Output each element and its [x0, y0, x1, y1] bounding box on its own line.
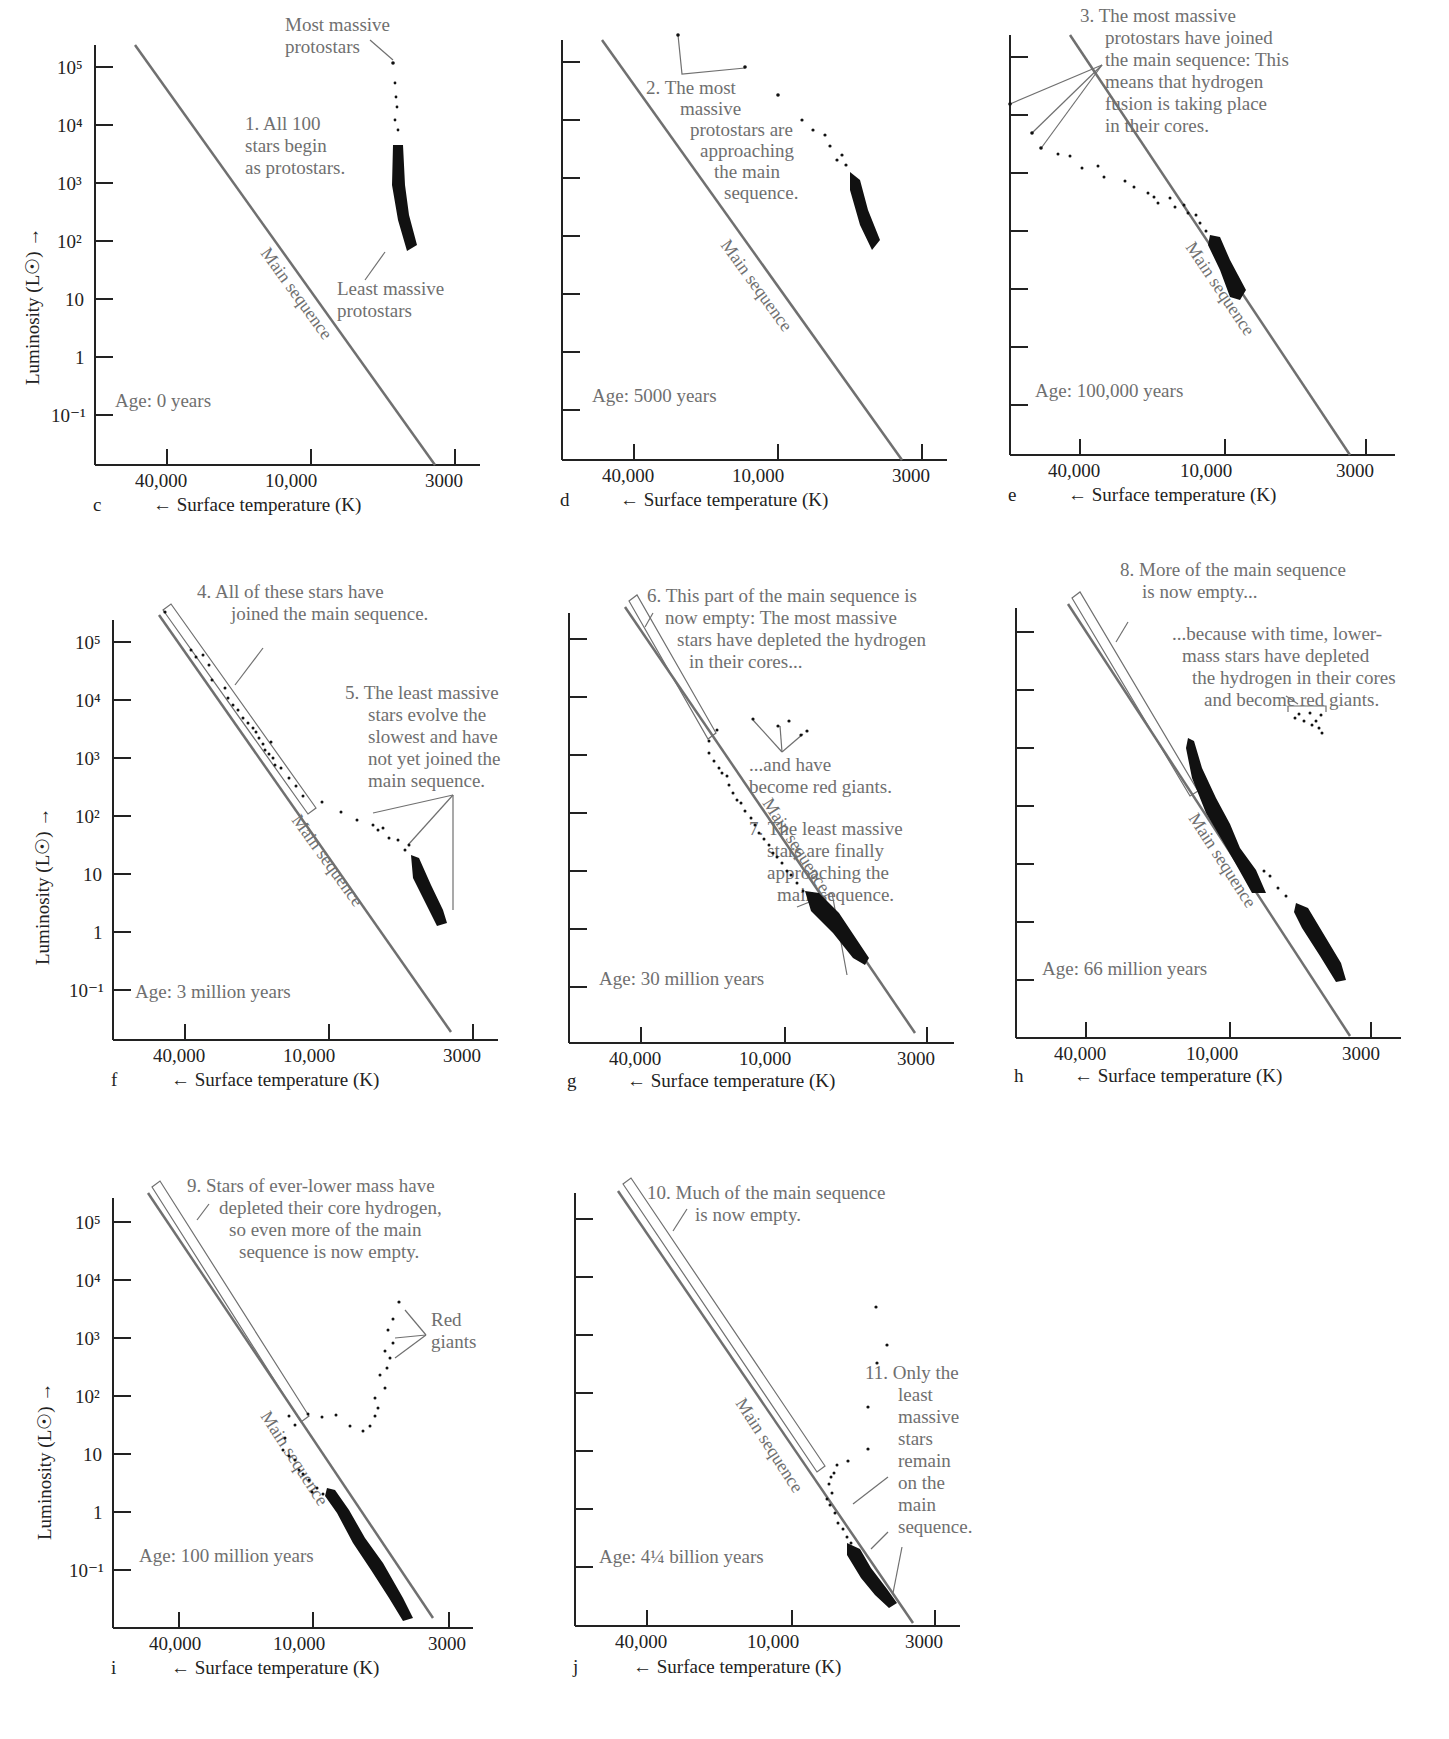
svg-text:on the: on the [898, 1472, 945, 1493]
svg-text:in their cores...: in their cores... [689, 651, 802, 672]
svg-text:1: 1 [93, 1502, 103, 1523]
svg-text:10,000: 10,000 [739, 1048, 791, 1069]
svg-text:10⁻¹: 10⁻¹ [69, 1560, 104, 1581]
panel-letter: c [93, 494, 101, 515]
svg-text:sequence.: sequence. [724, 182, 798, 203]
y-axis-title: Luminosity (L☉) → [32, 808, 54, 965]
svg-text:the hydrogen in their cores: the hydrogen in their cores [1192, 667, 1396, 688]
svg-text:3000: 3000 [428, 1633, 466, 1654]
svg-text:3. The most massive: 3. The most massive [1080, 5, 1236, 26]
svg-text:the main sequence: This: the main sequence: This [1105, 49, 1289, 70]
x-tick-labels: 40,00010,0003000 [1048, 460, 1374, 481]
x-tick-labels: 40,00010,0003000 [602, 465, 930, 486]
svg-text:8. More of the main sequence: 8. More of the main sequence [1120, 559, 1346, 580]
note: 1. All 100 [245, 113, 320, 134]
y-axis-title: Luminosity (L☉) → [22, 228, 44, 385]
svg-text:stars are finally: stars are finally [767, 840, 885, 861]
y-tick-labels: 10⁵10⁴10³10²10110⁻¹ [69, 632, 104, 1001]
svg-text:10²: 10² [57, 231, 82, 252]
panel-d: Main sequence 2. The mostmassiveprotosta… [562, 40, 952, 510]
note-least-massive: protostars [337, 300, 412, 321]
x-tick-labels: 40,00010,0003000 [609, 1048, 935, 1069]
y-axis-title: Luminosity (L☉) → [34, 1383, 56, 1540]
y-tick-labels: 10⁵10⁴10³10²10110⁻¹ [69, 1212, 104, 1581]
panel-j: Main sequence 10. Much of the main seque… [575, 1193, 965, 1663]
hr-diagram-j: Main sequence 10. Much of the main seque… [575, 1193, 965, 1663]
x-tick-labels: 40,00010,0003000 [615, 1631, 943, 1652]
svg-text:11. Only the: 11. Only the [865, 1362, 959, 1383]
svg-text:40,000: 40,000 [602, 465, 654, 486]
svg-text:7. The least massive: 7. The least massive [749, 818, 903, 839]
svg-text:10: 10 [83, 1444, 102, 1465]
svg-text:10,000: 10,000 [1186, 1043, 1238, 1064]
bracket-populated [163, 604, 316, 814]
note-4: 4. All of these stars havejoined the mai… [197, 581, 428, 624]
svg-text:not yet joined the: not yet joined the [368, 748, 500, 769]
hr-diagram-d: Main sequence 2. The mostmassiveprotosta… [562, 40, 952, 510]
svg-text:main sequence.: main sequence. [368, 770, 485, 791]
svg-text:40,000: 40,000 [615, 1631, 667, 1652]
note-6: 6. This part of the main sequence isnow … [647, 585, 927, 672]
y-tick-labels: 10⁵10⁴10³10²10110⁻¹ [51, 57, 86, 426]
svg-text:3000: 3000 [1336, 460, 1374, 481]
svg-text:main sequence.: main sequence. [777, 884, 894, 905]
svg-text:stars: stars [898, 1428, 933, 1449]
hr-diagram-g: Main sequence 6. This part of the main s… [569, 613, 959, 1083]
x-axis-title: ← Surface temperature (K) [1074, 1065, 1282, 1087]
note-red-giants: ...because with time, lower-mass stars h… [1172, 623, 1396, 710]
svg-text:10³: 10³ [57, 173, 82, 194]
x-axis-title: ← Surface temperature (K) [171, 1069, 379, 1091]
panel-letter: j [572, 1656, 578, 1677]
main-sequence-label: Main sequence [717, 236, 797, 336]
svg-text:10⁻¹: 10⁻¹ [51, 405, 86, 426]
svg-text:10⁴: 10⁴ [75, 690, 101, 711]
svg-text:means that hydrogen: means that hydrogen [1105, 71, 1264, 92]
svg-text:3000: 3000 [905, 1631, 943, 1652]
svg-text:sequence is now empty.: sequence is now empty. [239, 1241, 419, 1262]
hr-diagram-e: Main sequence 3. The most massiveprotost… [1010, 35, 1400, 505]
star-points [826, 1305, 898, 1608]
age-label: Age: 4¼ billion years [599, 1546, 764, 1567]
svg-text:mass stars have depleted: mass stars have depleted [1182, 645, 1370, 666]
svg-text:remain: remain [898, 1450, 951, 1471]
svg-text:joined the main sequence.: joined the main sequence. [230, 603, 428, 624]
svg-text:massive: massive [898, 1406, 959, 1427]
panel-g: Main sequence 6. This part of the main s… [569, 613, 959, 1083]
panel-e: Main sequence 3. The most massiveprotost… [1010, 35, 1400, 505]
svg-text:10⁴: 10⁴ [75, 1270, 101, 1291]
svg-text:protostars are: protostars are [690, 119, 793, 140]
note-9: 9. Stars of ever-lower mass havedepleted… [187, 1175, 442, 1262]
svg-text:10. Much of the main sequence: 10. Much of the main sequence [647, 1182, 885, 1203]
svg-text:4. All of these stars have: 4. All of these stars have [197, 581, 384, 602]
svg-text:3000: 3000 [425, 470, 463, 491]
svg-text:approaching the: approaching the [767, 862, 889, 883]
svg-text:fusion is taking place: fusion is taking place [1105, 93, 1267, 114]
svg-text:9. Stars of ever-lower mass ha: 9. Stars of ever-lower mass have [187, 1175, 435, 1196]
note-red-giants: Redgiants [431, 1309, 476, 1352]
main-sequence-label: Main sequence [257, 1407, 333, 1509]
svg-text:stars have depleted the hydrog: stars have depleted the hydrogen [677, 629, 927, 650]
age-label: Age: 100,000 years [1035, 380, 1183, 401]
svg-text:main: main [898, 1494, 936, 1515]
x-axis-title: ← Surface temperature (K) [153, 494, 361, 516]
svg-text:40,000: 40,000 [153, 1045, 205, 1066]
svg-text:6. This part of the main seque: 6. This part of the main sequence is [647, 585, 917, 606]
svg-text:3000: 3000 [1342, 1043, 1380, 1064]
svg-text:1: 1 [93, 922, 103, 943]
svg-text:40,000: 40,000 [1048, 460, 1100, 481]
panel-letter: i [111, 1657, 116, 1678]
panel-letter: g [567, 1070, 577, 1091]
age-label: Age: 30 million years [599, 968, 764, 989]
main-sequence-label: Main sequence [257, 244, 337, 344]
hr-diagram-i: Main sequence 9. Stars of ever-lower mas… [113, 1198, 503, 1668]
note-least-massive: Least massive [337, 278, 444, 299]
svg-text:giants: giants [431, 1331, 476, 1352]
star-points [391, 61, 417, 251]
svg-text:10,000: 10,000 [283, 1045, 335, 1066]
x-axis-title: ← Surface temperature (K) [633, 1656, 841, 1678]
svg-text:3000: 3000 [892, 465, 930, 486]
age-label: Age: 3 million years [135, 981, 291, 1002]
note-8: 8. More of the main sequenceis now empty… [1120, 559, 1346, 602]
svg-text:depleted their core hydrogen,: depleted their core hydrogen, [219, 1197, 442, 1218]
svg-text:5. The least massive: 5. The least massive [345, 682, 499, 703]
